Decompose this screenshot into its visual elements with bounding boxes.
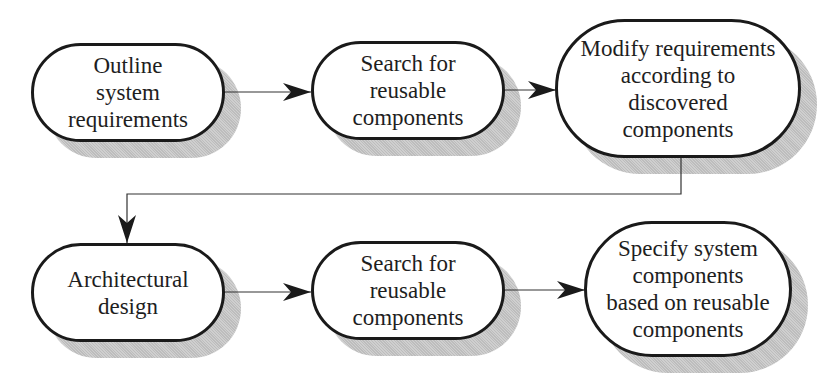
node-specify-system-components: Specify system components based on reusa… bbox=[584, 221, 792, 357]
node-search-reusable-components-2: Search for reusable components bbox=[311, 241, 505, 340]
node-search-reusable-components-1: Search for reusable components bbox=[311, 41, 505, 140]
edge-n3-n4 bbox=[127, 157, 681, 243]
diagram-canvas: Outline system requirements Search for r… bbox=[0, 0, 834, 387]
node-modify-requirements: Modify requirements according to discove… bbox=[555, 19, 801, 158]
node-architectural-design: Architectural design bbox=[31, 243, 225, 342]
node-outline-system-requirements: Outline system requirements bbox=[31, 43, 225, 142]
